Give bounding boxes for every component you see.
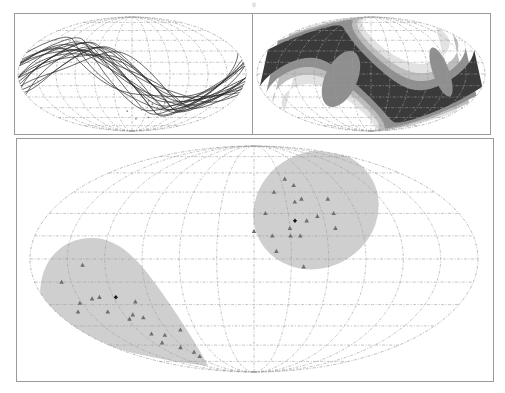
track-point [157, 107, 159, 109]
region-cluster-2 [232, 129, 399, 292]
cluster-regions [40, 129, 400, 366]
region-cluster-1 [40, 238, 208, 366]
track-point [126, 110, 128, 112]
track-point [147, 117, 149, 119]
figure [0, 0, 505, 393]
track-point [151, 103, 153, 105]
sky-map-clusters [30, 129, 478, 372]
track-point [135, 118, 137, 120]
track-point [157, 96, 159, 98]
track-point [148, 100, 150, 102]
track-point [156, 113, 158, 115]
track-point [165, 110, 167, 112]
graticule [18, 17, 246, 131]
track-point [164, 102, 166, 104]
sky-map-tracks [18, 17, 246, 131]
sky-map-density [257, 17, 485, 131]
track-point [173, 100, 175, 102]
track-point [141, 109, 143, 111]
